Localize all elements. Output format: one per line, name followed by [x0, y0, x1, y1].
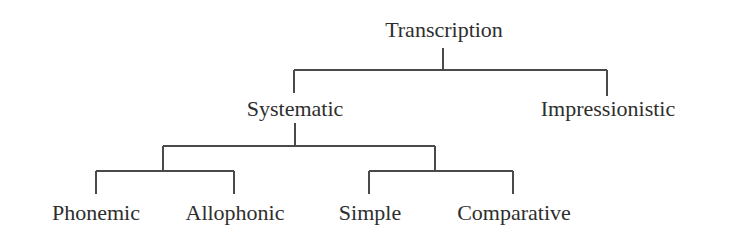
- node-transcription: Transcription: [385, 17, 503, 42]
- node-impressionistic: Impressionistic: [541, 96, 676, 121]
- node-allophonic: Allophonic: [186, 200, 285, 225]
- node-simple: Simple: [339, 200, 401, 225]
- node-phonemic: Phonemic: [52, 200, 140, 225]
- transcription-tree-diagram: Transcription Systematic Impressionistic…: [0, 0, 729, 248]
- node-systematic: Systematic: [247, 96, 344, 121]
- node-comparative: Comparative: [457, 200, 571, 225]
